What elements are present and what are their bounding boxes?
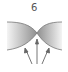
pinch-shape-icon [0,0,68,72]
